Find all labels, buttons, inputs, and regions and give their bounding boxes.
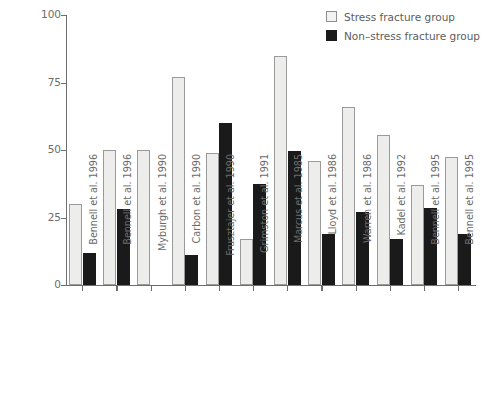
x-axis-label: Bennell et al. 1996 [121, 154, 134, 294]
x-axis-label: Kadel et al. 1992 [395, 154, 408, 294]
legend-label: Stress fracture group [344, 11, 455, 23]
bar-stress-fracture [137, 150, 150, 285]
x-tick-mark [458, 286, 459, 291]
bar-stress-fracture [342, 107, 355, 285]
bar-stress-fracture [206, 153, 219, 285]
x-axis-label: Bennell et al. 1996 [87, 154, 100, 294]
x-axis-label: Carbon et al. 1990 [190, 154, 203, 294]
bar-stress-fracture [172, 77, 185, 285]
x-axis-label: Marcus et al. 1985 [292, 154, 305, 294]
x-tick-mark [424, 286, 425, 291]
legend-label: Non–stress fracture group [344, 30, 480, 42]
y-tick-label: 0 [54, 278, 61, 290]
bar-stress-fracture [411, 185, 424, 285]
bar-stress-fracture [69, 204, 82, 285]
y-tick-mark [61, 218, 66, 219]
legend-item: Stress fracture group [326, 8, 480, 25]
x-tick-mark [151, 286, 152, 291]
y-tick-label: 50 [48, 143, 61, 155]
x-tick-mark [356, 286, 357, 291]
x-axis-label: Bennell et al. 1995 [429, 154, 442, 294]
y-tick-mark [61, 15, 66, 16]
x-tick-mark [185, 286, 186, 291]
x-tick-mark [390, 286, 391, 291]
x-tick-mark [82, 286, 83, 291]
bar-stress-fracture [377, 135, 390, 285]
x-axis-label: Frusztajer et al. 1990 [224, 154, 237, 294]
y-tick-mark [61, 150, 66, 151]
chart-legend: Stress fracture groupNon–stress fracture… [326, 8, 480, 46]
legend-item: Non–stress fracture group [326, 27, 480, 44]
x-tick-mark [116, 286, 117, 291]
x-tick-mark [321, 286, 322, 291]
y-tick-label: 75 [48, 76, 61, 88]
bar-stress-fracture [445, 157, 458, 285]
x-axis-label: Lloyd et al. 1986 [326, 154, 339, 294]
legend-swatch-light [326, 11, 337, 22]
x-tick-mark [287, 286, 288, 291]
bar-stress-fracture [308, 161, 321, 285]
bar-stress-fracture [240, 239, 253, 285]
y-tick-mark [61, 83, 66, 84]
legend-swatch-dark [326, 30, 337, 41]
bar-stress-fracture [103, 150, 116, 285]
y-tick-label: 100 [41, 8, 61, 20]
y-tick-label: 25 [48, 211, 61, 223]
bar-chart: % of athletes with menstrual irregularit… [0, 0, 486, 394]
x-axis-label: Grimston et al. 1991 [258, 154, 271, 294]
x-axis-label: Myburgh et al. 1990 [156, 154, 169, 294]
x-axis-label: Warren et al. 1986 [361, 154, 374, 294]
x-axis-label: Bennell et al. 1995 [463, 154, 476, 294]
y-tick-mark [61, 285, 66, 286]
x-tick-mark [219, 286, 220, 291]
x-tick-mark [253, 286, 254, 291]
bar-stress-fracture [274, 56, 287, 286]
